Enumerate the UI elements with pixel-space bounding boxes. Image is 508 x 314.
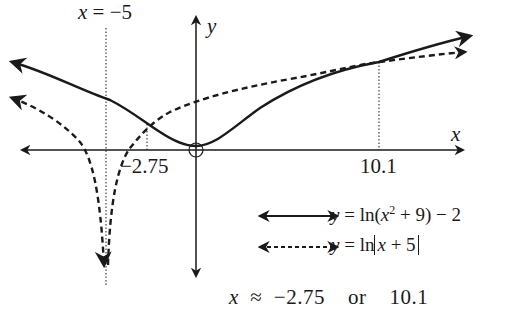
answer-or: or bbox=[348, 285, 367, 309]
answer-var: x bbox=[229, 285, 239, 309]
y-axis-label: y bbox=[207, 16, 216, 37]
solid-curve bbox=[12, 36, 470, 146]
asymptote-label-eq: = −5 bbox=[93, 0, 132, 24]
legend-dashed-abs: x + 5 bbox=[374, 235, 418, 255]
tick-label-pos: 10.1 bbox=[360, 156, 397, 177]
asymptote-label: x = −5 bbox=[78, 2, 132, 23]
answer-line: x ≈ −2.75 or 10.1 bbox=[229, 287, 428, 308]
legend-solid-sup: 2 bbox=[389, 203, 395, 217]
answer-value2: 10.1 bbox=[389, 285, 428, 309]
answer-value1: −2.75 bbox=[274, 285, 325, 309]
x-axis-label: x bbox=[451, 124, 460, 145]
asymptote-label-var: x bbox=[78, 0, 87, 24]
legend-solid-equation: y y = ln(x = ln(x2 + 9) − 2 bbox=[331, 204, 461, 224]
graph-canvas bbox=[0, 0, 508, 314]
dashed-curve-left-branch bbox=[12, 98, 104, 265]
legend-dashed-equation: y = lnx + 5 bbox=[331, 235, 419, 255]
tick-label-neg: −2.75 bbox=[120, 156, 169, 177]
answer-approx: ≈ bbox=[250, 285, 262, 309]
